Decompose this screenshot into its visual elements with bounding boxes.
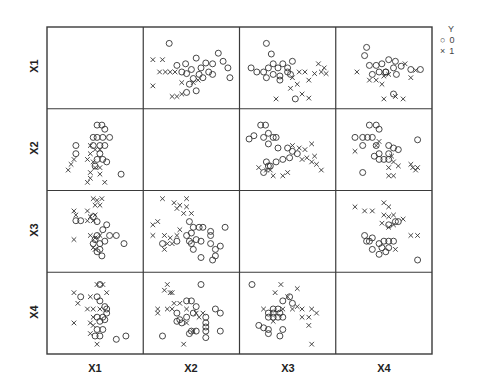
- panel-x2-x3: [246, 122, 324, 178]
- panel-x2-x4: [352, 122, 421, 178]
- row-label-x3: X3: [28, 210, 40, 250]
- legend-item-0: ○ 0: [440, 35, 454, 46]
- row-label-x4: X4: [28, 292, 40, 332]
- panel-x4-x2: [155, 282, 223, 347]
- panel-x4-x1: [72, 282, 129, 347]
- panel-x1-x4: [355, 44, 424, 101]
- panel-x1-x3: [248, 40, 328, 102]
- matrix-panels: [66, 40, 424, 346]
- col-label-x4: X4: [336, 362, 432, 374]
- x-marker-icon: ×: [440, 46, 445, 57]
- legend-item-1: × 1: [440, 46, 454, 57]
- col-label-x3: X3: [240, 362, 336, 374]
- legend-label-0: 0: [449, 35, 454, 46]
- panel-x3-x4: [353, 200, 421, 263]
- legend-label-1: 1: [449, 46, 454, 57]
- scatterplot-matrix: [0, 0, 477, 390]
- legend: Y ○ 0 × 1: [440, 24, 454, 57]
- col-label-x2: X2: [143, 362, 239, 374]
- row-label-x2: X2: [28, 128, 40, 168]
- circle-marker-icon: ○: [440, 35, 445, 46]
- panel-x3-x1: [72, 196, 127, 259]
- panel-x4-x3: [249, 282, 319, 347]
- col-label-x1: X1: [47, 362, 143, 374]
- panel-x2-x1: [66, 122, 124, 185]
- panel-x3-x2: [151, 196, 229, 263]
- panel-x1-x2: [151, 40, 233, 98]
- row-label-x1: X1: [28, 46, 40, 86]
- legend-title: Y: [440, 24, 454, 35]
